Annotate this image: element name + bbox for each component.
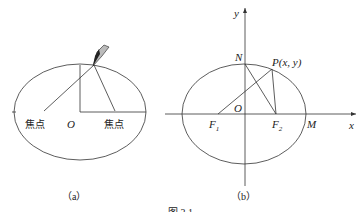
figure-b: y x N P(x, y) O F1 F2 M （b） <box>165 7 356 202</box>
line-P-F2 <box>272 69 276 114</box>
line-N-F2 <box>245 64 276 114</box>
figure-a: 焦点 O 焦点 （a） <box>12 45 146 202</box>
caption-b: （b） <box>231 191 256 202</box>
figure-caption: 图 3.1 <box>168 207 193 212</box>
pencil-icon <box>93 45 109 66</box>
origin-label-b: O <box>234 102 242 114</box>
x-axis-label: x <box>348 119 354 131</box>
string-right <box>94 65 115 111</box>
focus-F2-label: F2 <box>271 118 283 133</box>
origin-label-a: O <box>67 118 75 130</box>
focus-F1-label: F1 <box>208 118 219 133</box>
caption-a: （a） <box>62 191 86 202</box>
point-P-label: P(x, y) <box>271 56 302 69</box>
x-axis-arrow-icon <box>351 112 356 116</box>
point-M-label: M <box>306 118 317 130</box>
y-axis-arrow-icon <box>243 8 247 13</box>
point-N-label: N <box>234 51 243 63</box>
ellipse-figures: 焦点 O 焦点 （a） y x N P(x, y) O F1 F2 M （b） … <box>0 0 362 212</box>
right-focus-label: 焦点 <box>104 118 124 130</box>
left-focus-label: 焦点 <box>25 118 45 130</box>
string-left <box>44 65 94 111</box>
y-axis-label: y <box>233 7 239 19</box>
